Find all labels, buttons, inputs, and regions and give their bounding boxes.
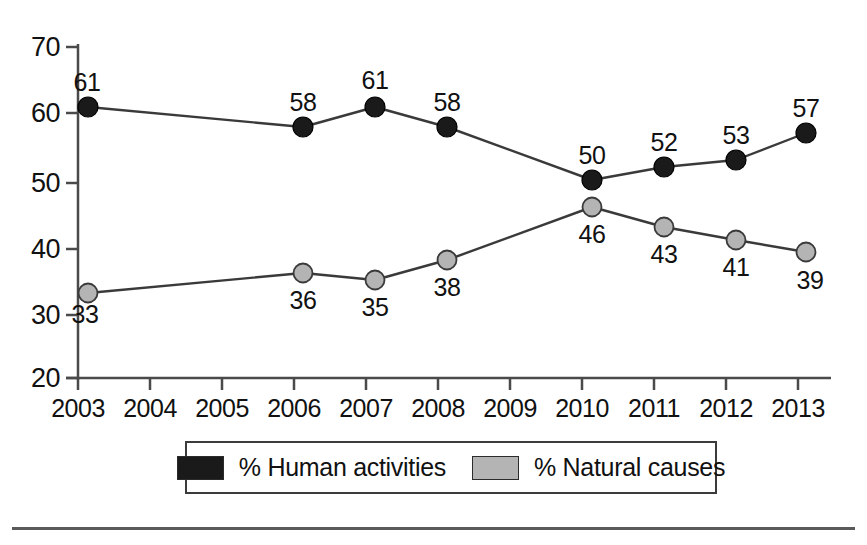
x-tick-label: 2012 <box>686 396 766 421</box>
legend-item-human-activities[interactable]: % Human activities <box>177 455 446 480</box>
legend-swatch-human-activities <box>177 456 224 480</box>
data-point-marker <box>655 218 674 237</box>
x-tick-label: 2003 <box>38 396 118 421</box>
data-point-marker <box>366 271 385 290</box>
bottom-divider <box>12 527 855 530</box>
data-label-natural: 43 <box>641 242 687 267</box>
x-tick-label: 2011 <box>614 396 694 421</box>
x-axis-ticks <box>78 378 798 390</box>
data-label-natural: 46 <box>569 222 615 247</box>
x-tick-label: 2013 <box>758 396 838 421</box>
data-label-natural: 35 <box>352 295 398 320</box>
x-tick-label: 2006 <box>254 396 334 421</box>
data-label-human: 52 <box>641 130 687 155</box>
y-axis-ticks <box>66 47 78 378</box>
y-tick-label: 30 <box>14 302 60 329</box>
data-point-marker <box>437 117 457 137</box>
y-tick-label: 40 <box>14 236 60 263</box>
x-tick-label: 2007 <box>326 396 406 421</box>
y-tick-label: 60 <box>14 100 60 127</box>
data-point-marker <box>294 264 313 283</box>
y-tick-label: 50 <box>14 170 60 197</box>
data-label-natural: 39 <box>787 268 833 293</box>
data-point-marker <box>582 170 602 190</box>
legend-swatch-natural-causes <box>472 456 519 480</box>
data-label-natural: 33 <box>62 302 108 327</box>
data-label-human: 57 <box>783 96 829 121</box>
data-label-natural: 38 <box>424 275 470 300</box>
data-label-human: 50 <box>569 143 615 168</box>
x-tick-label: 2009 <box>470 396 550 421</box>
data-label-human: 58 <box>424 90 470 115</box>
data-label-human: 61 <box>64 70 110 95</box>
data-label-human: 53 <box>713 123 759 148</box>
legend-item-natural-causes[interactable]: % Natural causes <box>472 455 725 480</box>
data-label-human: 61 <box>352 68 398 93</box>
x-tick-label: 2010 <box>542 396 622 421</box>
data-label-natural: 36 <box>280 288 326 313</box>
data-label-human: 58 <box>280 90 326 115</box>
chart-legend: % Human activities % Natural causes <box>185 441 717 494</box>
data-label-natural: 41 <box>713 255 759 280</box>
y-tick-label: 20 <box>14 365 60 392</box>
x-tick-label: 2005 <box>182 396 262 421</box>
data-point-marker <box>365 97 385 117</box>
y-tick-label: 70 <box>14 34 60 61</box>
x-tick-label: 2008 <box>398 396 478 421</box>
x-tick-label: 2004 <box>110 396 190 421</box>
data-point-marker <box>797 243 816 262</box>
data-point-marker <box>293 117 313 137</box>
data-point-marker <box>654 157 674 177</box>
data-point-marker <box>78 97 98 117</box>
legend-label-natural-causes: % Natural causes <box>534 455 725 480</box>
data-point-marker <box>726 150 746 170</box>
data-point-marker <box>583 198 602 217</box>
data-point-marker <box>727 231 746 250</box>
data-point-marker <box>438 251 457 270</box>
line-chart: 70 60 50 40 30 20 2003 2004 2005 2006 20… <box>0 0 867 545</box>
data-point-marker <box>796 123 816 143</box>
legend-label-human-activities: % Human activities <box>239 455 446 480</box>
